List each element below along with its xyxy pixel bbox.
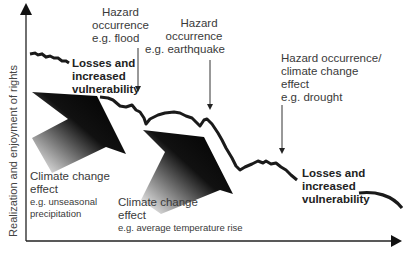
- label-line: occurrence: [140, 30, 230, 43]
- label-line: vulnerability: [72, 83, 140, 96]
- label-line: Hazard: [92, 6, 139, 19]
- rights-line-segment-1: [30, 53, 69, 63]
- pointer-arrow-drought: [279, 105, 285, 154]
- label-line: Hazard occurrence/: [281, 52, 381, 65]
- label-line: effect: [281, 78, 381, 91]
- label-line: effect: [30, 183, 110, 196]
- label-line: Climate change: [30, 170, 110, 183]
- label-line: precipitation: [30, 208, 110, 220]
- climate-effect-arrow-1: [32, 92, 126, 173]
- label-line: e.g. unseasonal: [30, 196, 110, 208]
- losses-label-1: Losses and increased vulnerability: [72, 57, 140, 96]
- label-line: climate change: [281, 65, 381, 78]
- label-line: Hazard: [140, 17, 230, 30]
- label-line: increased: [72, 70, 140, 83]
- label-line: Losses and: [72, 57, 140, 70]
- label-line: Climate change: [118, 196, 243, 209]
- pointer-arrow-earthquake: [207, 60, 213, 110]
- label-line: Losses and: [302, 167, 370, 180]
- label-line: vulnerability: [302, 193, 370, 206]
- label-line: increased: [302, 180, 370, 193]
- label-line: e.g. earthquake: [140, 43, 230, 56]
- label-line: e.g. drought: [281, 91, 381, 104]
- hazard-drought-label: Hazard occurrence/ climate change effect…: [281, 52, 381, 104]
- label-line: e.g. average temperature rise: [118, 222, 243, 234]
- losses-label-2: Losses and increased vulnerability: [302, 167, 370, 206]
- x-axis: [26, 235, 402, 247]
- hazard-flood-label: Hazard occurrence e.g. flood: [92, 6, 139, 45]
- y-axis-label: Realization and enjoyment of rights: [7, 56, 19, 246]
- label-line: occurrence: [92, 19, 139, 32]
- hazard-earthquake-label: Hazard occurrence e.g. earthquake: [140, 17, 230, 56]
- label-line: e.g. flood: [92, 32, 139, 45]
- climate-effect-label-2: Climate change effect e.g. average tempe…: [118, 196, 243, 234]
- climate-effect-label-1: Climate change effect e.g. unseasonal pr…: [30, 170, 110, 220]
- label-line: effect: [118, 209, 243, 222]
